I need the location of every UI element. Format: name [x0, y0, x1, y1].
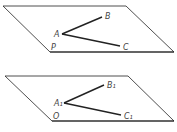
label-c1: C₁	[124, 112, 133, 121]
bottom-plane: A₁ B₁ C₁ O	[5, 76, 174, 121]
label-plane-p: P	[51, 43, 56, 52]
label-a1: A₁	[53, 99, 63, 108]
plane-p-parallelogram	[3, 6, 174, 52]
label-b: B	[105, 12, 111, 21]
ray-ab	[62, 17, 102, 34]
top-plane: A B C P	[3, 6, 174, 52]
ray-ac	[62, 34, 120, 46]
two-planes-angles-diagram: A B C P A₁ B₁ C₁ O	[0, 0, 177, 132]
ray-a1c1	[64, 103, 121, 115]
label-plane-o: O	[53, 112, 59, 121]
label-a: A	[53, 30, 59, 39]
diagram: A B C P A₁ B₁ C₁ O	[0, 0, 177, 132]
label-b1: B₁	[107, 81, 116, 90]
plane-o-parallelogram	[5, 76, 174, 121]
ray-a1b1	[64, 85, 104, 103]
label-c: C	[123, 43, 129, 52]
